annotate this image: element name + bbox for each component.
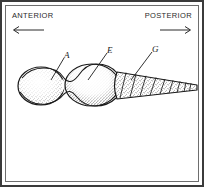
right-arrow-icon bbox=[160, 27, 191, 34]
part-label-a: A bbox=[64, 50, 70, 60]
anterior-bulb bbox=[18, 67, 64, 105]
part-label-e: E bbox=[107, 45, 113, 55]
anatomical-drawing bbox=[0, 0, 204, 187]
figure-root: ANTERIOR POSTERIOR A E G bbox=[0, 0, 204, 187]
anterior-direction-label: ANTERIOR bbox=[12, 11, 54, 20]
middle-bulb bbox=[65, 63, 119, 106]
part-label-g: G bbox=[152, 44, 159, 54]
left-arrow-icon bbox=[14, 27, 45, 34]
organism-body bbox=[18, 63, 197, 106]
posterior-direction-label: POSTERIOR bbox=[145, 11, 192, 20]
segmented-trunk bbox=[115, 72, 198, 99]
